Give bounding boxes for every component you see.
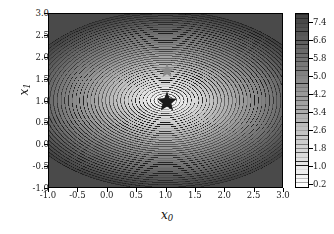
y-tick-label: 2.0 [35,53,49,62]
y-tick-label: 1.0 [35,96,49,105]
x-axis-label-subscript: 0 [168,213,173,223]
colorbar-tick-label: 5.8 [313,54,327,63]
colorbar-tick-label: 7.4 [313,18,327,27]
x-tick-label: 1.0 [159,191,173,200]
y-axis-label-text: x [17,89,31,96]
colorbar-tick-label: 6.6 [313,36,327,45]
y-tick-label: -0.5 [33,162,49,171]
figure-root: 3.02.52.01.51.00.50.0-0.5-1.0-1.0-0.50.0… [0,0,334,234]
y-tick-label: 2.5 [35,31,49,40]
y-tick-label: 0.5 [35,118,49,127]
colorbar-tick-label: 5.0 [313,72,327,81]
x-tick-label: -0.5 [69,191,85,200]
colorbar-tick-label: 3.4 [313,107,327,116]
x-tick-label: 0.5 [129,191,143,200]
x-axis-label-text: x [161,208,168,222]
x-tick-label: -1.0 [40,191,56,200]
colorbar-tick-label: 0.2 [313,179,327,188]
colorbar-tick-label: 2.6 [313,125,327,134]
plot-axes [48,13,283,188]
y-axis-label: x1 [17,60,32,120]
y-tick-label: 3.0 [35,9,49,18]
colorbar [295,13,309,188]
colorbar-tick-label: 1.8 [313,143,327,152]
colorbar-tick-label: 4.2 [313,90,327,99]
x-axis-label: x0 [0,208,334,223]
colorbar-tick-label: 1.0 [313,161,327,170]
x-tick-label: 2.0 [217,191,231,200]
x-tick-label: 2.5 [247,191,261,200]
y-axis-label-subscript: 1 [22,83,32,88]
y-tick-label: 0.0 [35,140,49,149]
x-tick-label: 0.0 [100,191,114,200]
x-tick-label: 3.0 [276,191,290,200]
colorbar-gradient [296,14,308,187]
x-tick-label: 1.5 [188,191,202,200]
y-tick-label: 1.5 [35,74,49,83]
